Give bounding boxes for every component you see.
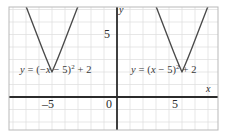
graph-figure: y = (−x − 5)2 + 2 y = (x − 5)2 + 2 5 –5 … <box>0 0 227 137</box>
eq-left-inner-var: x <box>46 64 51 75</box>
y-axis-label: y <box>119 4 123 15</box>
eq-right-plus: + <box>182 64 188 75</box>
eq-right-equals: = <box>139 64 145 75</box>
x-tick-label-0: 0 <box>106 97 112 112</box>
eq-right-inner-var: x <box>151 64 156 75</box>
x-axis-label: x <box>206 83 210 94</box>
x-tick-label-5: 5 <box>172 97 178 112</box>
eq-left-lhs: y <box>20 64 25 75</box>
x-tick-label-neg5: –5 <box>42 97 54 112</box>
eq-left-plus: + <box>77 64 83 75</box>
equation-label-left: y = (−x − 5)2 + 2 <box>20 64 92 75</box>
eq-left-inner-op: − <box>53 64 59 75</box>
eq-right-exponent: 2 <box>176 63 180 71</box>
equation-label-right: y = (x − 5)2 + 2 <box>131 64 197 75</box>
eq-left-constant: 2 <box>86 64 91 75</box>
eq-left-exponent: 2 <box>71 63 75 71</box>
eq-right-lhs: y <box>131 64 136 75</box>
eq-right-constant: 2 <box>191 64 196 75</box>
y-tick-label-5: 5 <box>104 27 110 42</box>
eq-right-inner-op: − <box>158 64 164 75</box>
eq-left-equals: = <box>28 64 34 75</box>
